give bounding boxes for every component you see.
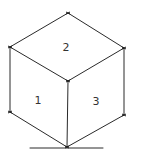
vertex-top — [66, 12, 70, 14]
face-label-left: 1 — [35, 94, 42, 107]
face-label-right: 3 — [93, 95, 100, 108]
face-label-top: 2 — [63, 41, 70, 54]
cube-diagram: 1 2 3 — [0, 0, 141, 159]
